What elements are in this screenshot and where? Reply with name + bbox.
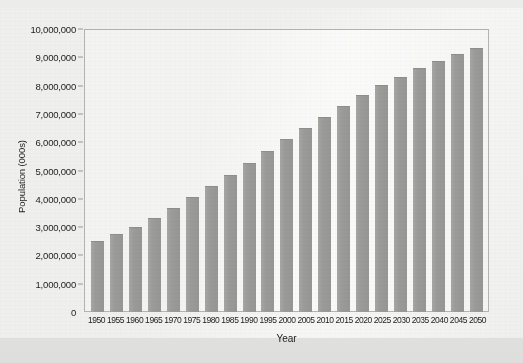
x-axis-tick-label: 1990 (239, 315, 258, 329)
bar-1990 (243, 163, 256, 312)
y-axis-tick-label: 5,000,000 (36, 165, 76, 176)
bar-1960 (129, 227, 142, 312)
x-axis-tick-label: 2005 (297, 315, 316, 329)
x-axis-tick-label: 2035 (411, 315, 430, 329)
scanned-page: Population (000s) 01,000,0002,000,0003,0… (0, 0, 523, 363)
bar-2035 (413, 68, 426, 312)
y-axis-tick-label: 1,000,000 (36, 278, 76, 289)
y-axis-tick-mark (78, 170, 83, 171)
x-axis-tick-label: 2040 (430, 315, 449, 329)
x-axis-tick-label: 1960 (125, 315, 144, 329)
bar-1985 (224, 175, 237, 312)
bar-2000 (280, 139, 293, 312)
x-axis-tick-label: 2000 (277, 315, 296, 329)
bar-2020 (356, 95, 369, 312)
x-axis-tick-label: 2010 (316, 315, 335, 329)
y-axis-tick-label: 2,000,000 (36, 250, 76, 261)
x-axis-tick-label: 2015 (335, 315, 354, 329)
bar-1975 (186, 197, 199, 312)
y-axis-tick-mark (78, 198, 83, 199)
bar-1995 (261, 151, 274, 312)
x-axis-labels: 1950195519601965197019751980198519901995… (85, 315, 488, 329)
x-axis-tick-label: 1970 (163, 315, 182, 329)
bar-2025 (375, 85, 388, 312)
x-axis-tick-label: 1985 (220, 315, 239, 329)
y-axis-tick-label: 3,000,000 (36, 222, 76, 233)
bar-1970 (167, 208, 180, 312)
bar-2040 (432, 61, 445, 312)
y-axis-tick-label: 0 (71, 307, 76, 318)
y-axis-tick-mark (78, 142, 83, 143)
x-axis-tick-label: 1950 (87, 315, 106, 329)
x-axis-tick-label: 2025 (373, 315, 392, 329)
x-axis-tick-label: 2030 (392, 315, 411, 329)
bar-2010 (318, 117, 331, 312)
bar-series (85, 30, 488, 312)
figure-panel: Population (000s) 01,000,0002,000,0003,0… (0, 8, 523, 338)
x-axis-title: Year (84, 333, 489, 344)
bar-1965 (148, 218, 161, 312)
x-axis-tick-label: 1980 (201, 315, 220, 329)
y-axis-tick-mark (78, 113, 83, 114)
x-axis-tick-label: 2020 (354, 315, 373, 329)
y-axis-tick-label: 9,000,000 (36, 52, 76, 63)
bar-2045 (451, 54, 464, 312)
x-axis-tick-label: 1995 (258, 315, 277, 329)
y-axis-labels: 01,000,0002,000,0003,000,0004,000,0005,0… (0, 29, 76, 312)
y-axis-tick-label: 8,000,000 (36, 80, 76, 91)
x-axis-tick-label: 2050 (468, 315, 487, 329)
bar-1980 (205, 186, 218, 312)
y-axis-tick-mark (78, 85, 83, 86)
y-axis-tick-label: 4,000,000 (36, 193, 76, 204)
x-axis-tick-label: 1975 (182, 315, 201, 329)
x-axis-tick-label: 1965 (144, 315, 163, 329)
x-axis-tick-label: 2045 (449, 315, 468, 329)
y-axis-tick-mark (78, 255, 83, 256)
y-axis-tick-mark (78, 57, 83, 58)
y-axis-tick-mark (78, 29, 83, 30)
y-axis-tick-label: 10,000,000 (30, 24, 76, 35)
y-axis-tick-label: 7,000,000 (36, 108, 76, 119)
y-axis-tick-mark (78, 283, 83, 284)
y-axis-tick-mark (78, 227, 83, 228)
x-axis-tick-label: 1955 (106, 315, 125, 329)
y-axis-tick-label: 6,000,000 (36, 137, 76, 148)
bar-2030 (394, 77, 407, 312)
bar-1950 (91, 241, 104, 312)
bar-2050 (470, 48, 483, 312)
bar-1955 (110, 234, 123, 312)
bar-2015 (337, 106, 350, 312)
bar-2005 (299, 128, 312, 312)
